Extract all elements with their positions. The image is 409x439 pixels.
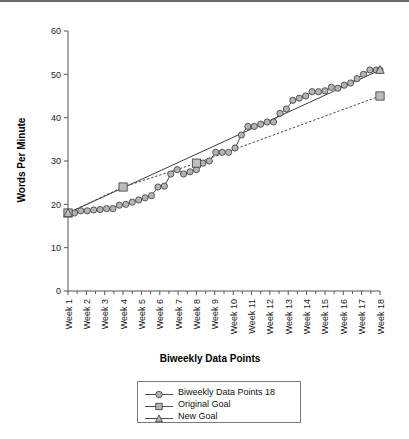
x-tick-label: Week 1	[64, 299, 74, 329]
y-tick-label: 0	[56, 286, 61, 296]
data-marker-circle	[277, 110, 283, 116]
x-tick-label: Week 15	[320, 299, 330, 334]
y-tick-label: 30	[51, 156, 61, 166]
data-marker-circle	[251, 123, 257, 129]
x-tick-label: Week 7	[174, 299, 184, 329]
data-marker-circle	[103, 206, 109, 212]
series-line-2	[68, 70, 380, 213]
x-tick-label: Week 4	[119, 299, 129, 329]
data-marker-circle	[328, 84, 334, 90]
data-marker-circle	[303, 93, 309, 99]
chart-legend: Biweekly Data Points 18 Original Goal Ne…	[137, 381, 301, 423]
data-marker-circle	[283, 106, 289, 112]
data-marker-circle	[225, 149, 231, 155]
legend-marker-circle-icon	[144, 386, 174, 397]
legend-item-biweekly: Biweekly Data Points 18	[144, 386, 300, 397]
x-tick-label: Week 2	[82, 299, 92, 329]
data-marker-circle	[270, 119, 276, 125]
data-marker-circle	[335, 85, 341, 91]
x-tick-label: Week 8	[192, 299, 202, 329]
data-series-group	[64, 66, 384, 218]
data-marker-square	[192, 159, 200, 167]
data-marker-circle	[161, 183, 167, 189]
data-marker-circle	[354, 76, 360, 82]
y-tick-label: 60	[51, 26, 61, 36]
data-marker-circle	[123, 201, 129, 207]
y-tick-label: 50	[51, 70, 61, 80]
x-tick-label: Week 13	[284, 299, 294, 334]
legend-marker-triangle-icon	[144, 410, 174, 421]
x-tick-label: Week 6	[155, 299, 165, 329]
data-marker-circle	[110, 206, 116, 212]
data-marker-circle	[348, 80, 354, 86]
x-tick-label: Week 17	[357, 299, 367, 334]
y-tick-label: 40	[51, 113, 61, 123]
x-tick-label: Week 3	[100, 299, 110, 329]
data-marker-circle	[84, 208, 90, 214]
data-marker-circle	[238, 132, 244, 138]
x-axis-title: Biweekly Data Points	[160, 353, 261, 364]
x-tick-label: Week 10	[229, 299, 239, 334]
data-marker-circle	[97, 206, 103, 212]
data-marker-circle	[168, 171, 174, 177]
data-marker-circle	[206, 158, 212, 164]
data-marker-circle	[367, 67, 373, 73]
y-axis-title: Words Per Minute	[16, 117, 27, 202]
data-marker-circle	[129, 199, 135, 205]
data-marker-circle	[341, 82, 347, 88]
data-marker-circle	[142, 195, 148, 201]
data-marker-circle	[264, 119, 270, 125]
x-tick-label: Week 5	[137, 299, 147, 329]
data-marker-circle	[116, 202, 122, 208]
line-chart: 0102030405060 Week 1Week 2Week 3Week 4We…	[0, 0, 409, 375]
x-tick-label: Week 9	[210, 299, 220, 329]
legend-item-new-goal: New Goal	[144, 410, 300, 421]
data-marker-circle	[245, 123, 251, 129]
legend-label-biweekly: Biweekly Data Points 18	[174, 387, 275, 397]
legend-item-original-goal: Original Goal	[144, 398, 300, 409]
data-marker-square	[376, 92, 384, 100]
y-tick-label: 20	[51, 200, 61, 210]
data-marker-circle	[219, 149, 225, 155]
y-axis: 0102030405060	[51, 26, 68, 296]
chart-page: 0102030405060 Week 1Week 2Week 3Week 4We…	[0, 0, 409, 439]
data-marker-circle	[187, 169, 193, 175]
data-marker-circle	[136, 197, 142, 203]
x-tick-label: Week 18	[376, 299, 386, 334]
legend-marker-square-icon	[144, 398, 174, 409]
x-tick-label: Week 12	[265, 299, 275, 334]
data-marker-circle	[290, 97, 296, 103]
x-tick-label: Week 16	[339, 299, 349, 334]
data-marker-circle	[155, 184, 161, 190]
y-tick-label: 10	[51, 243, 61, 253]
x-tick-label: Week 14	[302, 299, 312, 334]
data-marker-circle	[91, 207, 97, 213]
legend-label-original-goal: Original Goal	[174, 399, 231, 409]
data-marker-circle	[78, 208, 84, 214]
data-marker-circle	[181, 171, 187, 177]
data-marker-circle	[296, 95, 302, 101]
data-marker-circle	[232, 145, 238, 151]
data-marker-circle	[315, 89, 321, 95]
x-tick-label: Week 11	[247, 299, 257, 334]
data-marker-circle	[309, 89, 315, 95]
data-marker-circle	[213, 149, 219, 155]
x-axis: Week 1Week 2Week 3Week 4Week 5Week 6Week…	[64, 291, 386, 334]
data-marker-circle	[360, 71, 366, 77]
data-marker-circle	[174, 167, 180, 173]
data-marker-circle	[322, 88, 328, 94]
data-marker-square	[119, 183, 127, 191]
data-marker-circle	[258, 121, 264, 127]
data-marker-circle	[148, 193, 154, 199]
legend-label-new-goal: New Goal	[174, 411, 218, 421]
